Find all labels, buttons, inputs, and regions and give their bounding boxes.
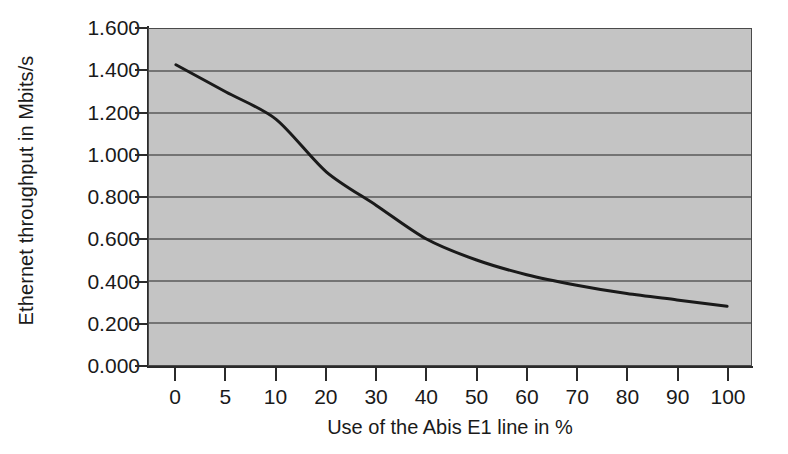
x-axis-tick-mark (275, 368, 277, 381)
x-axis-tick-label: 5 (219, 386, 231, 408)
chart-figure: Ethernet throughput in Mbits/s 0.0000.20… (0, 0, 788, 454)
y-axis-tick-mark (135, 238, 148, 240)
x-axis-tick-label: 80 (616, 386, 639, 408)
x-axis-tick-mark (526, 368, 528, 381)
x-axis-tick-label: 10 (264, 386, 287, 408)
y-axis-tick-mark (135, 323, 148, 325)
y-axis-tick-label: 0.800 (54, 186, 140, 207)
x-axis-tick-mark (325, 368, 327, 381)
x-axis-tick-label: 50 (465, 386, 488, 408)
data-series-path (176, 65, 727, 307)
x-axis-line (147, 366, 753, 368)
x-axis-tick-label: 90 (666, 386, 689, 408)
x-axis-tick-mark (576, 368, 578, 381)
x-axis-tick-label: 20 (314, 386, 337, 408)
plot-svg (149, 29, 751, 365)
x-axis-tick-label: 40 (415, 386, 438, 408)
plot-area (148, 28, 752, 366)
y-axis-tick-label: 1.000 (54, 144, 140, 165)
y-axis-tick-label: 0.000 (54, 355, 140, 376)
plot-area-wrapper (148, 28, 752, 366)
x-axis-tick-mark (174, 368, 176, 381)
x-axis-tick-label: 100 (710, 386, 745, 408)
y-axis-tick-label: 1.400 (54, 59, 140, 80)
y-axis-tick-label: 0.400 (54, 271, 140, 292)
x-axis-tick-label: 30 (364, 386, 387, 408)
y-axis-tick-mark (135, 365, 148, 367)
y-axis-tick-label: 1.200 (54, 102, 140, 123)
x-axis-tick-mark (727, 368, 729, 381)
x-axis-tick-mark (626, 368, 628, 381)
y-axis-title-text: Ethernet throughput in Mbits/s (16, 55, 39, 325)
x-axis-tick-mark (425, 368, 427, 381)
y-axis-title: Ethernet throughput in Mbits/s (0, 0, 54, 380)
y-axis-tick-label: 0.200 (54, 313, 140, 334)
y-axis-tick-labels: 0.0000.2000.4000.6000.8001.0001.2001.400… (52, 0, 140, 454)
x-axis-tick-label: 70 (565, 386, 588, 408)
y-axis-tick-mark (135, 281, 148, 283)
y-axis-tick-mark (135, 69, 148, 71)
x-axis-tick-label: 0 (169, 386, 181, 408)
x-axis-tick-mark (224, 368, 226, 381)
y-axis-tick-mark (135, 196, 148, 198)
data-series-line (176, 65, 727, 307)
y-axis-tick-mark (135, 112, 148, 114)
y-axis-tick-label: 1.600 (54, 17, 140, 38)
x-axis-tick-mark (677, 368, 679, 381)
y-axis-tick-mark (135, 154, 148, 156)
x-axis-tick-mark (476, 368, 478, 381)
y-axis-tick-label: 0.600 (54, 228, 140, 249)
x-axis-title: Use of the Abis E1 line in % (148, 416, 752, 439)
x-axis-tick-mark (375, 368, 377, 381)
x-axis-tick-label: 60 (515, 386, 538, 408)
y-axis-tick-mark (135, 27, 148, 29)
gridlines (149, 29, 751, 323)
